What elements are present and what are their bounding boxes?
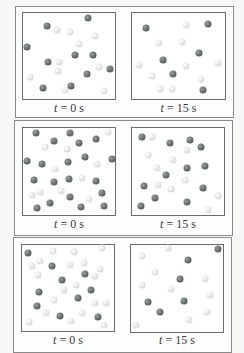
dark-molecule-icon — [200, 185, 207, 192]
dark-molecule-icon — [39, 161, 46, 168]
dark-molecule-icon — [143, 25, 150, 32]
light-molecule-icon — [92, 300, 99, 307]
light-molecule-icon — [198, 76, 205, 83]
dark-molecule-icon — [68, 83, 75, 90]
dark-molecule-icon — [31, 177, 38, 184]
light-molecule-icon — [202, 276, 209, 283]
panel-2-box-t15 — [131, 127, 225, 216]
dark-molecule-icon — [177, 276, 184, 283]
light-molecule-icon — [56, 59, 63, 66]
light-molecule-icon — [58, 188, 65, 195]
light-molecule-icon — [26, 319, 33, 326]
time-value: = 15 s — [163, 217, 195, 231]
dark-molecule-icon — [67, 130, 74, 137]
dark-molecule-icon — [40, 85, 47, 92]
dark-molecule-icon — [84, 71, 91, 78]
dark-molecule-icon — [75, 295, 82, 302]
light-molecule-icon — [155, 182, 162, 189]
dark-molecule-icon — [198, 144, 205, 151]
dark-molecule-icon — [93, 136, 100, 143]
dark-molecule-icon — [109, 156, 116, 163]
time-value: = 0 s — [57, 217, 83, 231]
light-molecule-icon — [186, 317, 193, 324]
light-molecule-icon — [64, 146, 71, 153]
dark-molecule-icon — [24, 44, 31, 51]
light-molecule-icon — [35, 272, 42, 279]
dark-molecule-icon — [184, 199, 191, 206]
dark-molecule-icon — [170, 71, 177, 78]
dark-molecule-icon — [152, 195, 159, 202]
dark-molecule-icon — [57, 313, 64, 320]
dark-molecule-icon — [65, 159, 72, 166]
panel-3-label-t0: t = 0 s — [21, 333, 115, 348]
dark-molecule-icon — [202, 163, 209, 170]
light-molecule-icon — [183, 22, 190, 29]
light-molecule-icon — [179, 39, 186, 46]
dark-molecule-icon — [184, 165, 191, 172]
dark-molecule-icon — [90, 52, 97, 59]
dark-molecule-icon — [33, 130, 40, 137]
dark-molecule-icon — [163, 172, 170, 179]
dark-molecule-icon — [82, 154, 89, 161]
light-molecule-icon — [67, 29, 74, 36]
dark-molecule-icon — [25, 250, 32, 257]
light-molecule-icon — [37, 189, 44, 196]
light-molecule-icon — [149, 73, 156, 80]
dark-molecule-icon — [167, 140, 174, 147]
light-molecule-icon — [133, 322, 140, 329]
light-molecule-icon — [215, 60, 222, 67]
light-molecule-icon — [29, 192, 36, 199]
light-molecule-icon — [139, 282, 146, 289]
light-molecule-icon — [92, 33, 99, 40]
light-molecule-icon — [152, 269, 159, 276]
panel-1-label-t15: t = 15 s — [131, 101, 226, 116]
dark-molecule-icon — [36, 289, 43, 296]
dark-molecule-icon — [66, 176, 73, 183]
light-molecule-icon — [207, 292, 214, 299]
dark-molecule-icon — [181, 298, 188, 305]
time-value: = 15 s — [162, 333, 194, 347]
panel-2-label-t0: t = 0 s — [22, 217, 116, 232]
light-molecule-icon — [157, 86, 164, 93]
light-molecule-icon — [54, 27, 61, 34]
light-molecule-icon — [37, 258, 44, 265]
light-molecule-icon — [71, 249, 78, 256]
panel-1-label-t0: t = 0 s — [22, 101, 116, 116]
dark-molecule-icon — [93, 178, 100, 185]
light-molecule-icon — [76, 41, 83, 48]
panel-3-label-t15: t = 15 s — [130, 333, 224, 348]
light-molecule-icon — [96, 64, 103, 71]
light-molecule-icon — [156, 40, 163, 47]
light-molecule-icon — [68, 318, 75, 325]
dark-molecule-icon — [59, 277, 66, 284]
light-molecule-icon — [94, 161, 101, 168]
dark-molecule-icon — [95, 314, 102, 321]
dark-molecule-icon — [82, 271, 89, 278]
light-molecule-icon — [136, 62, 143, 69]
light-molecule-icon — [204, 309, 211, 316]
light-molecule-icon — [101, 88, 108, 95]
dark-molecule-icon — [200, 87, 207, 94]
dark-molecule-icon — [99, 190, 106, 197]
light-molecule-icon — [55, 68, 62, 75]
dark-molecule-icon — [141, 183, 148, 190]
light-molecule-icon — [168, 286, 175, 293]
light-molecule-icon — [51, 297, 58, 304]
dark-molecule-icon — [88, 287, 95, 294]
time-value: = 0 s — [57, 101, 83, 115]
dark-molecule-icon — [107, 66, 114, 73]
light-molecule-icon — [99, 245, 106, 252]
dark-molecule-icon — [101, 203, 108, 210]
dark-molecule-icon — [157, 309, 164, 316]
panel-2-label-t15: t = 15 s — [131, 217, 225, 232]
light-molecule-icon — [165, 245, 172, 252]
dark-molecule-icon — [78, 204, 85, 211]
light-molecule-icon — [79, 175, 86, 182]
dark-molecule-icon — [72, 52, 79, 59]
light-molecule-icon — [215, 193, 222, 200]
light-molecule-icon — [103, 300, 110, 307]
light-molecule-icon — [101, 322, 108, 329]
light-molecule-icon — [205, 207, 212, 214]
light-molecule-icon — [154, 165, 161, 172]
dark-molecule-icon — [215, 246, 222, 253]
